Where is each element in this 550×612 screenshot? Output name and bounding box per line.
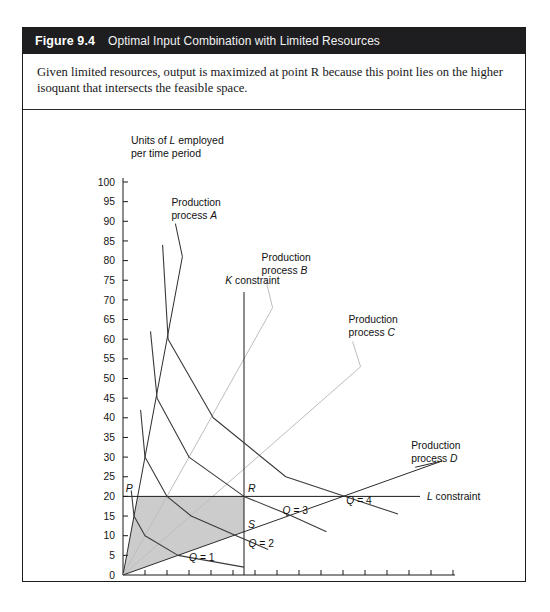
isoquant-label-q3: Q = 3: [283, 505, 309, 516]
k-constraint-label: K constraint: [225, 275, 280, 286]
y-tick-label: 50: [104, 373, 116, 384]
y-tick-label: 90: [104, 216, 116, 227]
annotation-process-C-line1: Production: [349, 314, 399, 325]
feasible-region-shading: [123, 496, 244, 575]
process-ray-leader-A: [175, 224, 182, 257]
y-axis-title: Units of L employed: [131, 134, 224, 146]
y-tick-label: 25: [104, 471, 116, 482]
annotation-process-A-line2: process A: [171, 210, 217, 221]
figure-number: Figure 9.4: [35, 34, 95, 48]
y-tick-label: 30: [104, 452, 116, 463]
point-label-s: S: [248, 518, 255, 530]
isoquant-label-q2: Q = 2: [248, 538, 274, 549]
figure-container: Figure 9.4 Optimal Input Combination wit…: [22, 27, 526, 582]
y-tick-label: 20: [104, 491, 116, 502]
l-constraint-label: L constraint: [427, 491, 480, 502]
y-axis-title-line2: per time period: [131, 147, 201, 159]
isoquant-label-q1: Q = 1: [189, 552, 215, 563]
y-tick-label: 100: [98, 177, 115, 188]
point-label-r: R: [248, 482, 256, 494]
annotation-process-C-line2: process C: [349, 327, 396, 338]
y-tick-label: 60: [104, 334, 116, 345]
plot-area: 0510152025303540455055606570758085909510…: [23, 112, 525, 581]
caption-text: Given limited resources, output is maxim…: [37, 65, 509, 96]
y-tick-label: 70: [104, 295, 116, 306]
y-tick-label: 80: [104, 255, 116, 266]
process-ray-leader-C: [353, 341, 361, 366]
isoquant-chart: 0510152025303540455055606570758085909510…: [23, 112, 525, 581]
annotation-process-A-line1: Production: [171, 197, 221, 208]
point-label-p: P: [126, 482, 133, 494]
annotation-process-B-line2: process B: [262, 265, 308, 276]
y-tick-label: 45: [104, 393, 116, 404]
y-tick-label: 5: [109, 550, 115, 561]
figure-caption: Given limited resources, output is maxim…: [23, 54, 525, 110]
y-tick-label: 40: [104, 412, 116, 423]
figure-header-bar: Figure 9.4 Optimal Input Combination wit…: [23, 28, 525, 54]
y-tick-label: 10: [104, 530, 116, 541]
figure-page: Figure 9.4 Optimal Input Combination wit…: [0, 0, 550, 612]
y-tick-label: 95: [104, 196, 116, 207]
y-tick-label: 0: [109, 570, 115, 581]
y-tick-label: 35: [104, 432, 116, 443]
figure-title: Optimal Input Combination with Limited R…: [108, 34, 380, 48]
isoquant-q4: [163, 245, 398, 514]
isoquant-label-q4: Q = 4: [346, 495, 372, 506]
y-tick-label: 75: [104, 275, 116, 286]
annotation-process-B-line1: Production: [262, 252, 312, 263]
y-tick-label: 55: [104, 353, 116, 364]
y-tick-label: 85: [104, 236, 116, 247]
annotation-process-D-line1: Production: [411, 440, 461, 451]
y-tick-label: 15: [104, 511, 116, 522]
y-tick-label: 65: [104, 314, 116, 325]
